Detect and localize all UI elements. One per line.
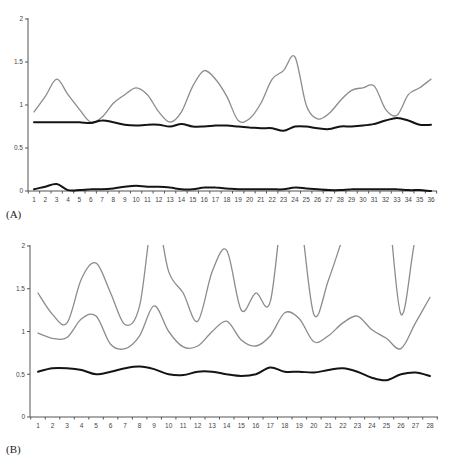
y-tick-label: 2 bbox=[19, 15, 23, 22]
x-tick-label: 11 bbox=[180, 422, 187, 429]
x-tick-label: 9 bbox=[123, 196, 127, 203]
x-tick-label: 18 bbox=[281, 422, 289, 429]
x-tick-label: 22 bbox=[339, 422, 347, 429]
x-tick-label: 9 bbox=[152, 422, 156, 429]
x-tick-label: 10 bbox=[165, 422, 173, 429]
series-line-grey-upper bbox=[38, 186, 430, 326]
x-tick-label: 5 bbox=[94, 422, 98, 429]
x-tick-label: 30 bbox=[359, 196, 367, 203]
x-tick-label: 12 bbox=[155, 196, 163, 203]
x-tick-label: 15 bbox=[189, 196, 197, 203]
x-tick-label: 3 bbox=[65, 422, 69, 429]
y-tick-label: 1 bbox=[19, 101, 23, 108]
x-tick-label: 4 bbox=[80, 422, 84, 429]
x-tick-label: 7 bbox=[123, 422, 127, 429]
series-group bbox=[38, 186, 430, 380]
x-tick-label: 8 bbox=[138, 422, 142, 429]
panel-a: 00.511.521234567891011121314151617181920… bbox=[6, 15, 437, 221]
x-tick-label: 23 bbox=[280, 196, 288, 203]
panel-b: 00.511.521234567891011121314151617181920… bbox=[6, 186, 438, 456]
x-tick-label: 6 bbox=[109, 422, 113, 429]
x-tick-label: 4 bbox=[66, 196, 70, 203]
x-tick-label: 29 bbox=[348, 196, 356, 203]
x-tick-label: 22 bbox=[269, 196, 277, 203]
x-tick-label: 13 bbox=[166, 196, 174, 203]
y-tick-label: 1 bbox=[21, 328, 25, 335]
x-tick-label: 34 bbox=[405, 196, 413, 203]
x-tick-label: 15 bbox=[238, 422, 246, 429]
x-tick-label: 20 bbox=[246, 196, 254, 203]
x-tick-label: 24 bbox=[368, 422, 376, 429]
x-tick-label: 27 bbox=[325, 196, 333, 203]
x-tick-label: 23 bbox=[354, 422, 362, 429]
x-tick-label: 19 bbox=[296, 422, 304, 429]
x-tick-label: 13 bbox=[209, 422, 217, 429]
y-tick-label: 0.5 bbox=[14, 144, 23, 151]
x-tick-label: 28 bbox=[426, 422, 434, 429]
x-tick-label: 8 bbox=[112, 196, 116, 203]
y-tick-label: 1.5 bbox=[16, 285, 25, 292]
x-tick-label: 20 bbox=[310, 422, 318, 429]
x-tick-label: 26 bbox=[314, 196, 322, 203]
figure: 00.511.521234567891011121314151617181920… bbox=[0, 0, 454, 468]
x-tick-label: 5 bbox=[78, 196, 82, 203]
x-tick-label: 33 bbox=[393, 196, 401, 203]
series-line-grey-upper bbox=[34, 56, 431, 123]
x-tick-label: 21 bbox=[325, 422, 333, 429]
x-tick-label: 7 bbox=[100, 196, 104, 203]
x-tick-label: 18 bbox=[223, 196, 231, 203]
x-tick-label: 28 bbox=[337, 196, 345, 203]
x-tick-label: 1 bbox=[36, 422, 40, 429]
x-tick-label: 25 bbox=[383, 422, 391, 429]
panel-label: (B) bbox=[6, 443, 21, 456]
panel-label: (A) bbox=[6, 208, 22, 221]
x-tick-label: 16 bbox=[252, 422, 260, 429]
y-tick-label: 2 bbox=[21, 242, 25, 249]
x-tick-label: 27 bbox=[412, 422, 420, 429]
x-tick-label: 36 bbox=[427, 196, 435, 203]
x-tick-label: 6 bbox=[89, 196, 93, 203]
x-tick-label: 2 bbox=[44, 196, 48, 203]
x-tick-label: 21 bbox=[257, 196, 265, 203]
series-group bbox=[34, 56, 431, 191]
x-tick-label: 26 bbox=[397, 422, 405, 429]
x-tick-label: 1 bbox=[32, 196, 36, 203]
x-tick-label: 10 bbox=[132, 196, 140, 203]
y-tick-label: 0 bbox=[19, 187, 23, 194]
x-tick-label: 17 bbox=[212, 196, 220, 203]
x-tick-label: 14 bbox=[178, 196, 186, 203]
y-tick-label: 1.5 bbox=[14, 58, 23, 65]
x-tick-label: 3 bbox=[55, 196, 59, 203]
x-tick-label: 17 bbox=[267, 422, 275, 429]
series-line-black-lower bbox=[38, 367, 430, 381]
x-tick-label: 24 bbox=[291, 196, 299, 203]
x-tick-label: 16 bbox=[201, 196, 209, 203]
x-tick-label: 2 bbox=[51, 422, 55, 429]
x-tick-label: 12 bbox=[194, 422, 202, 429]
x-tick-label: 31 bbox=[371, 196, 379, 203]
series-line-grey-middle bbox=[38, 297, 430, 349]
series-line-black-middle bbox=[34, 118, 431, 131]
x-tick-label: 14 bbox=[223, 422, 231, 429]
x-tick-label: 25 bbox=[303, 196, 311, 203]
x-tick-label: 11 bbox=[144, 196, 151, 203]
x-tick-label: 32 bbox=[382, 196, 390, 203]
series-line-black-lower bbox=[34, 184, 431, 191]
x-tick-label: 35 bbox=[416, 196, 424, 203]
x-tick-label: 19 bbox=[235, 196, 243, 203]
y-tick-label: 0.5 bbox=[16, 371, 25, 378]
y-tick-label: 0 bbox=[21, 413, 25, 420]
